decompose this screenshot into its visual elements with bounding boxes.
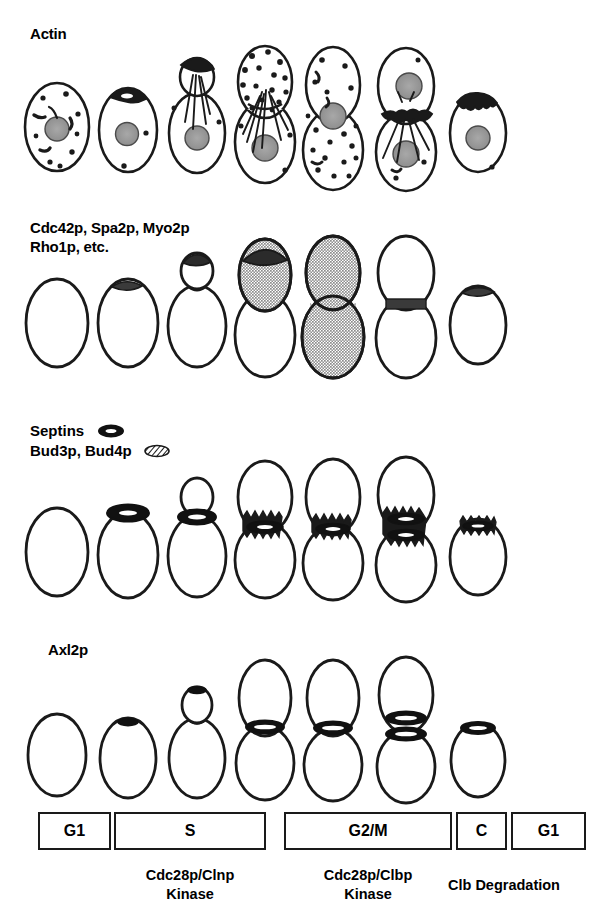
axl2p-cell-3 xyxy=(169,687,225,798)
actin-cell-5 xyxy=(303,47,363,190)
axl2p-cell-1 xyxy=(28,714,86,796)
solid-black-ring-icon xyxy=(96,422,126,440)
septin-cell-6 xyxy=(376,457,436,602)
septin-cell-4 xyxy=(235,461,295,598)
actin-cell-4 xyxy=(235,46,295,183)
polarisome-cell-1 xyxy=(26,279,88,367)
septin-cell-2 xyxy=(98,505,158,599)
axl2p-cell-6 xyxy=(377,657,435,803)
septin-cell-5 xyxy=(303,459,363,600)
legend-septins: Septins xyxy=(30,421,126,440)
polarisome-cell-2 xyxy=(98,279,158,367)
axl2p-cell-2 xyxy=(100,718,156,798)
phase-label: S xyxy=(185,822,196,840)
septin-cell-7 xyxy=(450,516,506,595)
legend-septins-label: Septins xyxy=(30,421,84,440)
yeast-cell-cycle-figure: Actin xyxy=(0,0,609,923)
phase-label: C xyxy=(476,822,488,840)
actin-cell-1 xyxy=(25,83,89,171)
actin-cell-7 xyxy=(450,93,506,172)
axl2p-cell-4 xyxy=(236,660,294,800)
actin-cell-2 xyxy=(99,88,157,172)
polarisome-cell-7 xyxy=(450,286,506,364)
septin-cell-1 xyxy=(26,508,88,596)
phase-label: G1 xyxy=(538,822,559,840)
annotation-cln-kinase: Cdc28p/Clnp Kinase xyxy=(114,866,266,904)
polarisome-cell-4 xyxy=(235,239,295,377)
phase-box-g1-start: G1 xyxy=(38,812,111,850)
polarisome-cell-5 xyxy=(302,236,364,378)
axl2p-row-diagram xyxy=(0,650,609,805)
phase-box-s: S xyxy=(114,812,266,850)
cell-cycle-phase-bar: G1 S G2/M C G1 xyxy=(0,812,609,854)
polarisome-row-diagram xyxy=(0,225,609,385)
annotation-clb-degradation: Clb Degradation xyxy=(414,876,594,895)
phase-box-g2m: G2/M xyxy=(284,812,452,850)
actin-cell-3 xyxy=(169,58,225,173)
phase-label: G1 xyxy=(64,822,85,840)
actin-row-diagram xyxy=(0,30,609,200)
polarisome-cell-3 xyxy=(168,253,226,367)
hatched-collar xyxy=(243,511,283,538)
phase-box-g1-end: G1 xyxy=(511,812,586,850)
axl2p-cell-5 xyxy=(304,660,362,801)
double-hatched-collar xyxy=(383,507,426,546)
phase-label: G2/M xyxy=(348,822,387,840)
septin-cell-3 xyxy=(168,478,226,597)
actin-cell-6 xyxy=(376,48,436,191)
phase-box-c: C xyxy=(456,812,507,850)
axl2p-cell-7 xyxy=(451,722,505,797)
polarisome-cell-6 xyxy=(376,236,436,378)
septins-row-diagram xyxy=(0,455,609,605)
